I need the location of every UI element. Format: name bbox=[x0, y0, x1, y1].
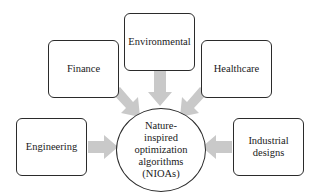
center-label: Nature- inspired optimization algorithms… bbox=[134, 120, 187, 180]
node-healthcare: Healthcare bbox=[201, 40, 272, 98]
node-environmental: Environmental bbox=[124, 13, 195, 71]
node-label: Finance bbox=[67, 63, 100, 75]
arrow-industrial-to-center bbox=[202, 135, 232, 159]
nioa-applications-diagram: Finance Environmental Healthcare Enginee… bbox=[0, 0, 320, 195]
arrow-environmental-to-center bbox=[148, 71, 172, 106]
arrow-engineering-to-center bbox=[88, 135, 118, 159]
node-industrial-designs: Industrial designs bbox=[233, 118, 304, 176]
center-node-nioas: Nature- inspired optimization algorithms… bbox=[116, 108, 206, 192]
node-label: Industrial designs bbox=[248, 135, 288, 159]
node-label: Healthcare bbox=[214, 63, 259, 75]
node-label: Engineering bbox=[26, 141, 77, 153]
node-finance: Finance bbox=[48, 40, 119, 98]
node-engineering: Engineering bbox=[16, 118, 87, 176]
node-label: Environmental bbox=[128, 36, 190, 48]
